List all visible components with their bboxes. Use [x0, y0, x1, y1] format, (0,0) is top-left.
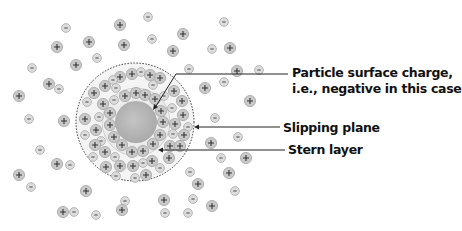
slipping-plane-pointer: [194, 125, 280, 130]
charged-particle: [115, 101, 157, 143]
stern-layer-label: Stern layer: [288, 142, 363, 157]
particle-charge-label-line1: Particle surface charge,: [292, 65, 453, 80]
particle-charge-label-line2: i.e., negative in this case: [292, 81, 462, 96]
slipping-plane-label: Slipping plane: [283, 120, 380, 135]
